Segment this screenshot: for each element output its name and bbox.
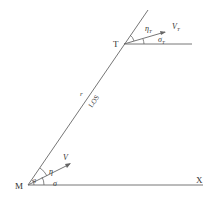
eta-label: η — [49, 167, 53, 176]
los-line — [28, 10, 148, 185]
axis-x-label: X — [196, 175, 203, 185]
sigma-arc — [42, 177, 44, 185]
missile-velocity-label: V — [63, 153, 69, 162]
sigma-t-arc — [143, 39, 144, 44]
missile-velocity-arrowhead — [65, 163, 71, 168]
sigma-t-label: σT — [158, 35, 166, 45]
range-label: r — [80, 90, 83, 98]
sigma-label: σ — [53, 179, 58, 188]
eta-arc — [40, 168, 47, 176]
target-label: T — [113, 39, 119, 49]
eta-t-label: ηT — [145, 24, 153, 34]
target-velocity-label: VT — [172, 22, 181, 32]
eta-t-arc — [130, 35, 134, 41]
missile-label: M — [15, 181, 23, 191]
diagram-canvas: M X T σ η q V r LOS ηT VT σT — [0, 0, 213, 198]
q-label: q — [33, 177, 36, 183]
engagement-geometry-diagram: M X T σ η q V r LOS ηT VT σT — [0, 0, 213, 198]
